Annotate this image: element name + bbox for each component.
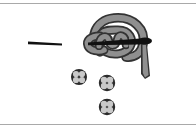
needle <box>88 38 152 79</box>
illustration-artwork <box>0 0 196 129</box>
button-2 <box>99 75 115 91</box>
illustration-canvas <box>0 0 196 129</box>
needle-eye <box>138 38 152 45</box>
button-3 <box>99 99 115 115</box>
dash-mark <box>28 42 62 46</box>
button-1 <box>71 69 87 85</box>
